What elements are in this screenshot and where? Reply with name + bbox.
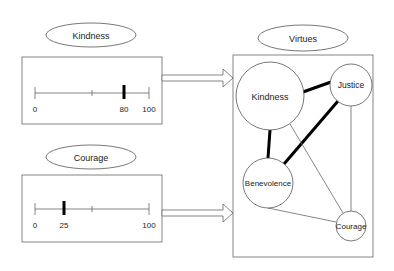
kindness-slider-label-max: 100 bbox=[142, 105, 156, 114]
kindness-slider-label-min: 0 bbox=[33, 105, 38, 114]
node-courage[interactable]: Courage bbox=[336, 211, 367, 241]
kindness-slider-label-value: 80 bbox=[120, 105, 129, 114]
virtues-title: Virtues bbox=[289, 34, 317, 44]
virtues-output-panel: Virtues Kindness Justice Benevolence Cou… bbox=[233, 25, 373, 257]
node-justice[interactable]: Justice bbox=[330, 64, 372, 106]
node-kindness-label: Kindness bbox=[251, 92, 289, 102]
courage-slider-thumb[interactable] bbox=[63, 201, 66, 215]
kindness-input-panel: Kindness 0 80 100 bbox=[22, 23, 162, 124]
kindness-to-virtues-arrow-icon bbox=[162, 69, 233, 87]
courage-slider-label-min: 0 bbox=[33, 221, 38, 230]
courage-to-virtues-arrow-icon bbox=[162, 204, 233, 222]
node-courage-label: Courage bbox=[336, 222, 367, 231]
courage-slider-label-value: 25 bbox=[60, 221, 69, 230]
node-benevolence-label: Benevolence bbox=[245, 179, 292, 188]
kindness-title: Kindness bbox=[72, 31, 110, 41]
node-justice-label: Justice bbox=[338, 80, 365, 90]
virtues-diagram: Kindness 0 80 100 Courage 0 25 100 bbox=[0, 0, 394, 271]
courage-input-panel: Courage 0 25 100 bbox=[22, 145, 162, 242]
kindness-slider-thumb[interactable] bbox=[123, 85, 126, 99]
node-benevolence[interactable]: Benevolence bbox=[243, 158, 293, 208]
courage-title: Courage bbox=[74, 153, 109, 163]
node-kindness[interactable]: Kindness bbox=[236, 62, 304, 130]
edge-kindness-benevolence bbox=[268, 130, 270, 158]
courage-slider-label-max: 100 bbox=[142, 221, 156, 230]
